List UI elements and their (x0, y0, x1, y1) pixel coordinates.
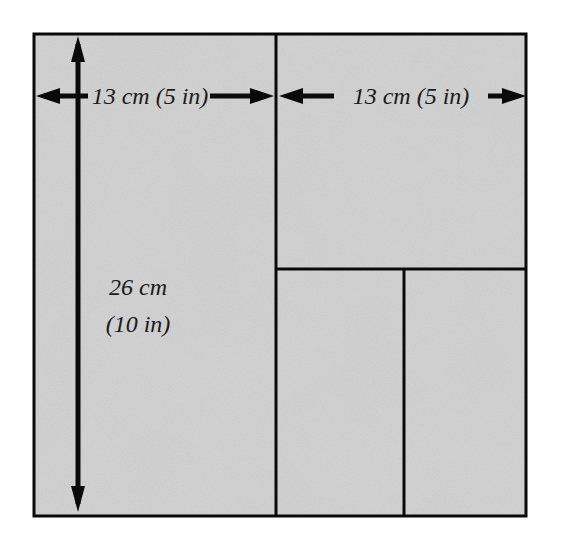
cutting-diagram: 13 cm (5 in) 13 cm (5 in) 26 cm (10 in) (0, 0, 564, 539)
height-label-line1: 26 cm (109, 274, 167, 300)
width-label-right: 13 cm (5 in) (353, 83, 470, 109)
height-label-line2: (10 in) (106, 311, 171, 337)
width-label-left: 13 cm (5 in) (92, 83, 209, 109)
